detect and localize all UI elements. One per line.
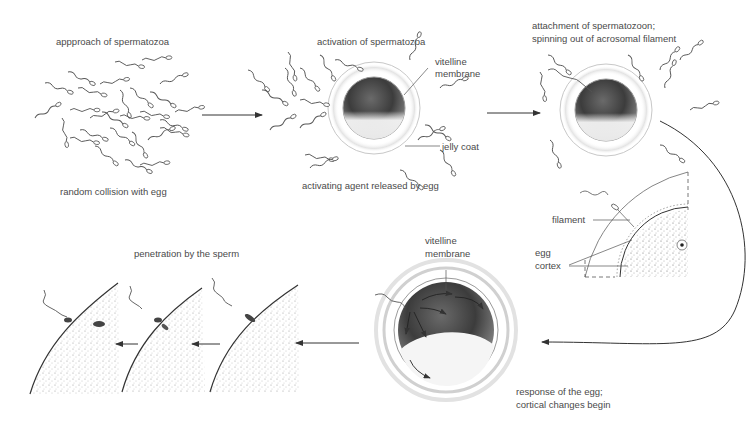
cortex-detail (569, 172, 688, 277)
label-egg: egg (535, 247, 551, 259)
label-approach: appproach of spermatozoa (56, 36, 169, 48)
penetration-step-2 (122, 286, 205, 392)
label-jelly-coat: jelly coat (442, 141, 479, 153)
label-cortex: cortex (535, 260, 561, 272)
label-membrane-2: membrane (425, 248, 470, 260)
penetration-step-3 (210, 278, 300, 392)
label-random-collision: random collision with egg (60, 186, 167, 198)
label-penetration: penetration by the sperm (134, 248, 239, 260)
label-activation: activation of spermatozoa (317, 36, 425, 48)
label-vitelline-2: vitelline (425, 235, 457, 247)
label-filament: filament (552, 214, 585, 226)
egg-response (375, 260, 516, 400)
egg-attachment (538, 39, 719, 168)
label-response-2: cortical changes begin (516, 399, 611, 411)
diagram-canvas (0, 0, 756, 427)
label-activating-agent: activating agent released by egg (302, 180, 439, 192)
label-membrane-1: membrane (435, 68, 480, 80)
penetration-step-1 (30, 283, 120, 394)
sperm-cluster (34, 56, 205, 175)
label-vitelline-1: vitelline (435, 56, 467, 68)
label-response-1: response of the egg; (516, 386, 603, 398)
label-attachment-2: spinning out of acrosomal filament (532, 33, 676, 45)
label-attachment-1: attachment of spermatozoon; (532, 20, 655, 32)
